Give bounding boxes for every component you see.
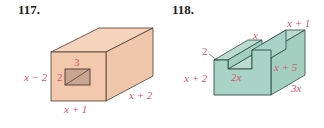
label-notch-width: 2x xyxy=(231,71,242,83)
label-right-height: x + 5 xyxy=(273,61,298,73)
label-notch-top: x xyxy=(252,29,258,41)
figure-118: 118. 2 x x + 2 2x x + 5 x + 1 3x xyxy=(162,0,324,128)
label-depth: 3x xyxy=(290,82,302,94)
label-left-height: x + 2 xyxy=(183,72,208,84)
box-with-hole-diagram: 3 2 x − 2 x + 1 x + 2 xyxy=(0,0,162,128)
label-box-height: x − 2 xyxy=(23,71,48,83)
figure-117: 117. 3 2 x − 2 x + 1 x + 2 xyxy=(0,0,162,128)
stepped-block-diagram: 2 x x + 2 2x x + 5 x + 1 3x xyxy=(162,0,324,128)
label-top-right: x + 1 xyxy=(286,17,310,29)
label-notch-depth: 2 xyxy=(202,45,208,57)
label-hole-height: 2 xyxy=(57,71,63,83)
label-box-width: x + 1 xyxy=(63,103,87,115)
label-hole-width: 3 xyxy=(74,56,80,68)
label-box-depth: x + 2 xyxy=(128,89,153,101)
